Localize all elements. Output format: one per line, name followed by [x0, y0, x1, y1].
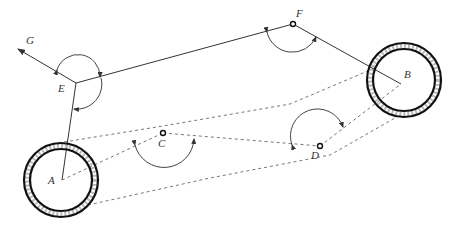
- link-ef: [76, 24, 293, 83]
- dashed-link-cd: [163, 133, 320, 146]
- angle-arc-f: [267, 32, 316, 52]
- label-c: C: [158, 137, 166, 149]
- link-fb: [293, 24, 401, 84]
- dashed-link-db: [320, 84, 401, 146]
- label-g: G: [26, 34, 34, 46]
- wheel-a: [24, 143, 98, 217]
- joint-d: [318, 144, 323, 149]
- link-ae: [62, 83, 76, 180]
- upper-dashed-boundary: [64, 68, 375, 142]
- mechanism-diagram: A B C D E F G: [0, 0, 449, 229]
- angle-arc-d: [290, 109, 343, 145]
- label-f: F: [295, 7, 303, 19]
- wheel-b: [367, 43, 441, 117]
- joint-c: [161, 131, 166, 136]
- label-b: B: [404, 68, 411, 80]
- direction-arrow-g: [18, 49, 76, 83]
- lower-dashed-boundary: [88, 118, 395, 205]
- joint-f: [291, 22, 296, 27]
- angle-arc-e-upper: [57, 55, 100, 77]
- label-a: A: [47, 174, 55, 186]
- label-d: D: [310, 149, 319, 161]
- label-e: E: [57, 82, 65, 94]
